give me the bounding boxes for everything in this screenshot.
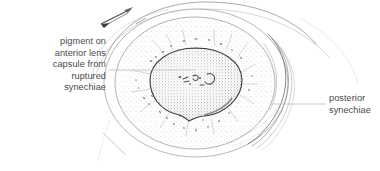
outer-sclera-arc-right [300, 18, 358, 84]
posterior-synechiae-label: posterior synechiae [329, 93, 380, 116]
pigment-on-anterior-lens-capsule-label: pigment on anterior lens capsule from ru… [0, 36, 106, 94]
globe-contour-lower-left [98, 120, 110, 162]
eyelid-margin-line [103, 133, 126, 155]
eye-illustration-figure: pigment on anterior lens capsule from ru… [0, 0, 380, 171]
